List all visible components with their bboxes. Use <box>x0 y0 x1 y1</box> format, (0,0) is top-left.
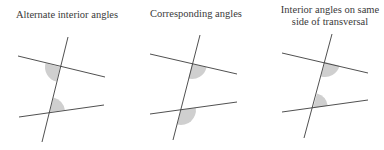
diagram-alternate-interior <box>18 37 105 142</box>
transversal-line <box>304 34 332 138</box>
diagram-corresponding <box>150 35 237 140</box>
transversal-angle-diagrams <box>0 0 384 150</box>
diagram-interior-same-side <box>282 34 368 138</box>
transversal-line <box>173 35 200 140</box>
transversal-line <box>42 37 68 142</box>
parallel-line-top <box>18 56 105 77</box>
